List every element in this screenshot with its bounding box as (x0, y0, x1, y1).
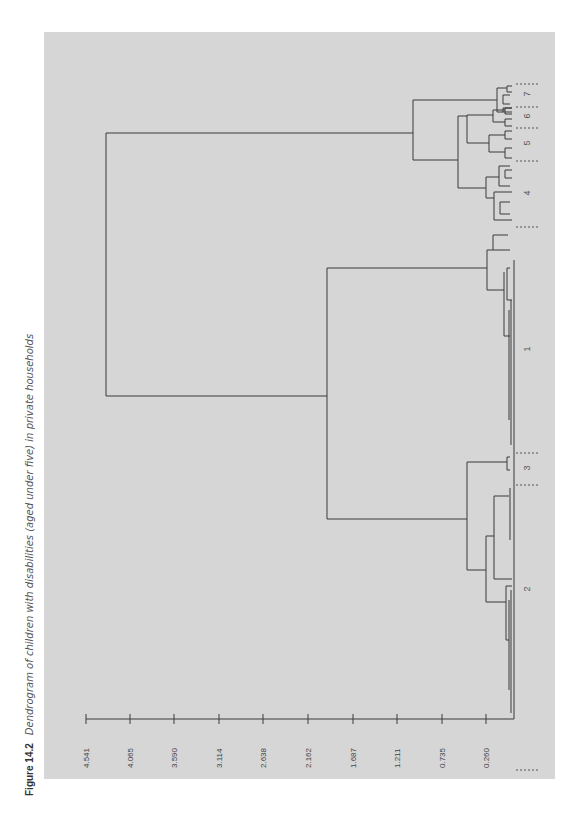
distance-axis (86, 260, 514, 724)
tick-label: 0.735 (438, 748, 447, 768)
tick-label: 1.211 (393, 749, 402, 768)
cluster-label-3: 3 (522, 465, 532, 470)
tick-label: 3.114 (215, 749, 224, 768)
tick-label: 2.162 (304, 748, 313, 768)
tick-label: 4.541 (82, 748, 91, 768)
dendrogram (0, 0, 583, 820)
upper-branch (413, 86, 512, 220)
tick-label: 0.260 (482, 748, 491, 768)
tick-label: 1.687 (349, 748, 358, 768)
root-merge (106, 133, 413, 396)
cluster-label-2: 2 (522, 586, 532, 591)
tick-label: 3.590 (170, 748, 179, 768)
cluster-separators (516, 84, 540, 770)
tick-label: 2.638 (259, 748, 268, 768)
cluster-label-6: 6 (522, 113, 532, 118)
cluster-label-5: 5 (522, 140, 532, 145)
cluster-label-7: 7 (522, 91, 532, 96)
lower-branch (327, 235, 512, 713)
tick-label: 4.065 (126, 748, 135, 768)
cluster-label-4: 4 (522, 190, 532, 195)
cluster-label-1: 1 (522, 346, 532, 351)
